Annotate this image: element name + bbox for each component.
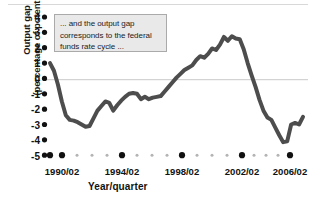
x-tick-dot-major [59,152,65,158]
x-tick-dot-minor [136,154,139,157]
y-axis-tick-dots [42,14,47,157]
y-tick-dot [42,76,47,81]
x-tick-dot-origin [47,152,53,158]
x-tick-dot-minor [151,154,154,157]
y-tick-dot [42,60,47,65]
x-tick-label: 1998/02 [165,166,199,177]
x-tick-label: 1990/02 [45,166,79,177]
x-tick-dot-minor [196,154,199,157]
x-tick-dot-major [119,152,125,158]
y-tick-dot [42,107,47,112]
x-tick-label: 2002/02 [225,166,259,177]
x-tick-dot-major [239,152,245,158]
x-tick-dot-minor [226,154,229,157]
x-tick-label: 2006/02 [273,166,307,177]
x-tick-dot-minor [253,154,256,157]
x-tick-dot-minor [277,154,280,157]
annotation-line-3: funds rate cycle ... [60,41,161,53]
x-tick-dot-minor [76,154,79,157]
x-axis-title: Year/quarter [88,181,148,192]
output-gap-chart-figure: Output gap (percentage of potential GDP)… [0,0,313,198]
x-tick-dot-major [287,152,293,158]
y-tick-dot [42,137,47,142]
y-tick-dot [42,30,47,35]
y-tick-dot [42,122,47,127]
annotation-line-1: ... and the output gap [60,18,161,30]
annotation-callout: ... and the output gap corresponds to th… [54,14,167,52]
annotation-line-2: corresponds to the federal [60,30,161,42]
y-tick-dot [42,91,47,96]
x-tick-dot-minor [91,154,94,157]
x-axis-tick-dots [47,152,293,158]
x-tick-dot-major [179,152,185,158]
x-tick-dot-minor [265,154,268,157]
y-tick-dot [42,153,47,158]
x-tick-dot-minor [106,154,109,157]
x-tick-label: 1994/02 [105,166,139,177]
x-tick-dot-minor [211,154,214,157]
y-tick-dot [42,14,47,19]
y-tick-dot [42,45,47,50]
x-tick-dot-minor [166,154,169,157]
